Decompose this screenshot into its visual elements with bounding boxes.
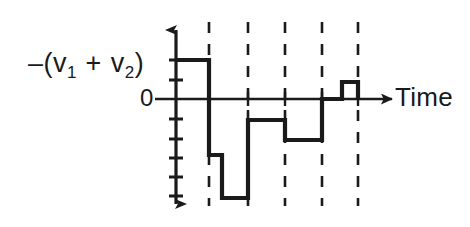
x-axis-time-label: Time bbox=[395, 84, 453, 110]
plot-canvas bbox=[0, 0, 470, 227]
gridline-group bbox=[209, 22, 358, 206]
y-axis-label-plus: + bbox=[77, 48, 111, 78]
y-axis-label-v1: v bbox=[53, 48, 67, 78]
y-axis-label: –(v1 + v2) bbox=[28, 50, 144, 77]
waveform-figure: –(v1 + v2) 0 Time bbox=[0, 0, 470, 227]
zero-origin-label: 0 bbox=[140, 86, 153, 110]
y-axis-label-sub1: 1 bbox=[67, 63, 77, 82]
y-axis-label-sub2: 2 bbox=[125, 63, 135, 82]
y-axis-label-suffix: ) bbox=[135, 48, 145, 78]
y-axis-label-prefix: –( bbox=[28, 48, 53, 78]
waveform-trace bbox=[176, 60, 358, 198]
y-axis-label-v2: v bbox=[111, 48, 125, 78]
